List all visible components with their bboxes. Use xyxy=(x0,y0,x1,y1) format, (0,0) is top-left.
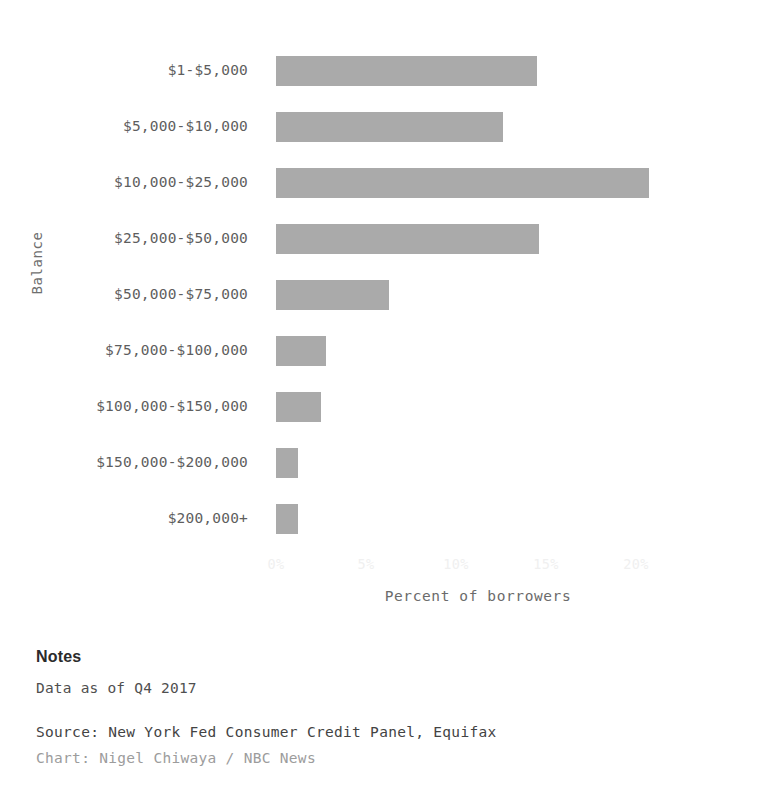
bar[interactable] xyxy=(276,392,321,422)
category-label: $5,000-$10,000 xyxy=(0,98,262,154)
category-label: $75,000-$100,000 xyxy=(0,322,262,378)
credit-line: Chart: Nigel Chiwaya / NBC News xyxy=(36,750,736,766)
notes-heading: Notes xyxy=(36,648,736,666)
plot-area: $1-$5,000$5,000-$10,000$10,000-$25,000$2… xyxy=(0,0,760,560)
bar-row: $10,000-$25,000 xyxy=(0,154,760,210)
x-tick-label: 5% xyxy=(336,556,396,572)
notes-section: Notes Data as of Q4 2017 Source: New Yor… xyxy=(36,648,736,766)
category-label: $25,000-$50,000 xyxy=(0,210,262,266)
x-axis-title: Percent of borrowers xyxy=(278,588,678,604)
category-label: $1-$5,000 xyxy=(0,42,262,98)
x-axis-ticks: 0%5%10%15%20% xyxy=(0,556,760,582)
bar-row: $25,000-$50,000 xyxy=(0,210,760,266)
category-label: $10,000-$25,000 xyxy=(0,154,262,210)
notes-body: Data as of Q4 2017 xyxy=(36,680,736,696)
bar[interactable] xyxy=(276,336,326,366)
category-label: $150,000-$200,000 xyxy=(0,434,262,490)
bar-row: $50,000-$75,000 xyxy=(0,266,760,322)
source-line: Source: New York Fed Consumer Credit Pan… xyxy=(36,724,736,740)
category-label: $200,000+ xyxy=(0,490,262,546)
bar-chart-figure: Balance $1-$5,000$5,000-$10,000$10,000-$… xyxy=(0,0,760,630)
bar-row: $75,000-$100,000 xyxy=(0,322,760,378)
category-label: $100,000-$150,000 xyxy=(0,378,262,434)
chart-page: Balance $1-$5,000$5,000-$10,000$10,000-$… xyxy=(0,0,760,796)
bar[interactable] xyxy=(276,504,298,534)
x-tick-label: 20% xyxy=(606,556,666,572)
bar-row: $100,000-$150,000 xyxy=(0,378,760,434)
bar-row: $5,000-$10,000 xyxy=(0,98,760,154)
category-label: $50,000-$75,000 xyxy=(0,266,262,322)
bar[interactable] xyxy=(276,56,537,86)
bar[interactable] xyxy=(276,224,539,254)
bar[interactable] xyxy=(276,112,503,142)
x-tick-label: 15% xyxy=(516,556,576,572)
x-tick-label: 10% xyxy=(426,556,486,572)
bar[interactable] xyxy=(276,448,298,478)
bar[interactable] xyxy=(276,168,649,198)
bar-row: $150,000-$200,000 xyxy=(0,434,760,490)
bar[interactable] xyxy=(276,280,389,310)
bar-row: $200,000+ xyxy=(0,490,760,546)
bar-row: $1-$5,000 xyxy=(0,42,760,98)
x-tick-label: 0% xyxy=(246,556,306,572)
